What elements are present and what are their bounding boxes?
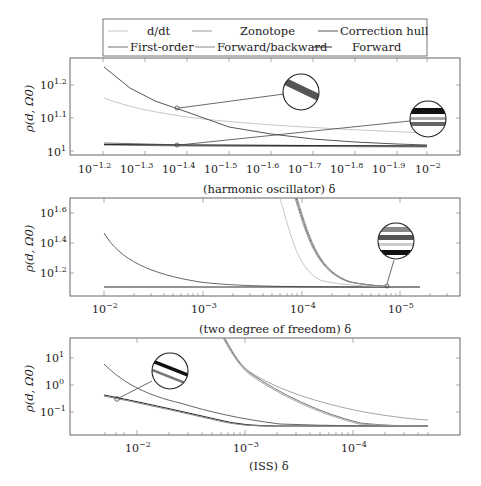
ytick-label: 101.2 bbox=[40, 77, 67, 92]
svg-text:10−1.4: 10−1.4 bbox=[162, 161, 195, 176]
ytick-label: 101.1 bbox=[40, 110, 67, 125]
svg-text:10−2: 10−2 bbox=[92, 301, 118, 316]
legend-label-correction-hull: Correction hull bbox=[340, 24, 429, 38]
ylabel: ρ(d, Ω0) bbox=[22, 225, 36, 273]
series-forward bbox=[104, 395, 428, 426]
magnifier-inset bbox=[175, 101, 448, 147]
plot-harmonic-oscillator: 101 101.1 101.2 10−1.2 10−1.3 10−1.4 10−… bbox=[22, 58, 460, 196]
series-ddt bbox=[225, 338, 428, 420]
ytick-label: 101 bbox=[45, 350, 64, 365]
svg-text:10−4: 10−4 bbox=[290, 301, 316, 316]
legend-label-zonotope: Zonotope bbox=[240, 24, 295, 38]
ylabel: ρ(d, Ω0) bbox=[22, 85, 36, 133]
ytick-label: 100 bbox=[45, 377, 64, 392]
figure: d/dt Zonotope Correction hull First-orde… bbox=[0, 0, 481, 486]
svg-text:10−1.9: 10−1.9 bbox=[372, 161, 405, 176]
legend-label-ddt: d/dt bbox=[147, 24, 171, 38]
ytick-label: 10−1 bbox=[40, 404, 66, 419]
plot-iss: 10−1 100 101 10−2 10−3 10−4 (ISS) δ ρ(d,… bbox=[22, 338, 460, 473]
ytick-label: 101.2 bbox=[40, 265, 67, 280]
magnifier-inset bbox=[376, 223, 416, 288]
series-forward-backward bbox=[104, 396, 428, 426]
svg-text:10−5: 10−5 bbox=[388, 301, 414, 316]
legend: d/dt Zonotope Correction hull First-orde… bbox=[103, 19, 429, 56]
series-ddt bbox=[104, 98, 427, 133]
series-correction-hull bbox=[104, 233, 420, 287]
svg-text:10−1.5: 10−1.5 bbox=[204, 161, 237, 176]
xlabel: (harmonic oscillator) δ bbox=[203, 182, 336, 196]
ytick-label: 101.4 bbox=[40, 235, 67, 250]
legend-label-first-order: First-order bbox=[130, 40, 194, 54]
xtick-labels: 10−1.2 10−1.3 10−1.4 10−1.5 10−1.6 10−1.… bbox=[78, 161, 441, 176]
svg-text:10−1.8: 10−1.8 bbox=[330, 161, 363, 176]
svg-text:10−1.6: 10−1.6 bbox=[246, 161, 279, 176]
series-zonotope bbox=[223, 338, 428, 426]
svg-text:10−2: 10−2 bbox=[125, 440, 151, 455]
svg-text:10−1.2: 10−1.2 bbox=[78, 161, 111, 176]
svg-text:10−1.7: 10−1.7 bbox=[288, 161, 321, 176]
ylabel: ρ(d, Ω0) bbox=[22, 365, 36, 413]
xlabel: (two degree of freedom) δ bbox=[199, 322, 351, 336]
series-correction-hull bbox=[104, 67, 427, 145]
svg-text:10−3: 10−3 bbox=[191, 301, 217, 316]
xlabel: (ISS) δ bbox=[249, 459, 289, 473]
ytick-label: 101.6 bbox=[40, 205, 67, 220]
legend-label-forward: Forward bbox=[352, 40, 402, 54]
plot-two-degree-of-freedom: 101.2 101.4 101.6 10−2 10−3 10−4 10−5 (t… bbox=[22, 198, 460, 336]
magnifier-inset bbox=[175, 74, 322, 110]
svg-text:10−1.3: 10−1.3 bbox=[120, 161, 153, 176]
svg-text:10−3: 10−3 bbox=[233, 440, 259, 455]
series-first-order bbox=[224, 338, 428, 426]
svg-text:10−2: 10−2 bbox=[415, 161, 441, 176]
xtick-labels: 10−2 10−3 10−4 10−5 bbox=[92, 301, 414, 316]
svg-text:10−4: 10−4 bbox=[341, 440, 367, 455]
ytick-label: 101 bbox=[47, 144, 66, 159]
xtick-labels: 10−2 10−3 10−4 bbox=[125, 440, 367, 455]
legend-label-forward-backward: Forward/backward bbox=[217, 40, 328, 54]
